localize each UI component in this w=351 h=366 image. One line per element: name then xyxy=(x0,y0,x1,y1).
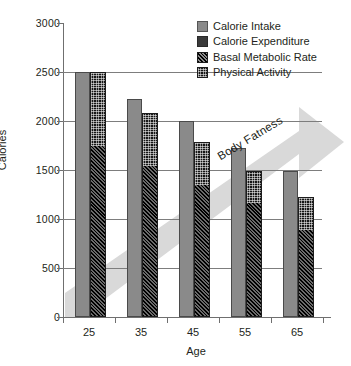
segment-physical-activity-35 xyxy=(142,113,158,166)
legend-item-physical-activity: Physical Activity xyxy=(197,66,351,81)
bar-expenditure-35 xyxy=(142,113,158,317)
legend-swatch-dotted-icon xyxy=(197,67,208,78)
bar-expenditure-25 xyxy=(90,72,106,317)
legend-item-basal-metabolic-rate: Basal Metabolic Rate xyxy=(197,50,351,65)
legend-swatch-hatched-icon xyxy=(197,52,208,63)
legend-swatch-solid-dark-icon xyxy=(197,36,208,47)
x-tick-2 xyxy=(167,317,168,323)
segment-physical-activity-45 xyxy=(194,142,210,185)
segment-bmr-55 xyxy=(246,203,262,317)
y-axis-title: Calories xyxy=(0,130,8,170)
segment-bmr-35 xyxy=(142,166,158,317)
legend-label-basal-metabolic-rate: Basal Metabolic Rate xyxy=(213,52,317,63)
calorie-chart: 3000 2500 2000 1500 1000 500 0 Calories xyxy=(0,0,351,366)
x-axis-title: Age xyxy=(186,345,206,357)
x-tick-label-65: 65 xyxy=(291,326,303,338)
x-tick-4 xyxy=(271,317,272,323)
legend-item-calorie-expenditure: Calorie Expenditure xyxy=(197,35,351,50)
chart-legend: Calorie Intake Calorie Expenditure Basal… xyxy=(197,19,351,81)
segment-physical-activity-65 xyxy=(298,197,314,229)
x-axis-line xyxy=(63,317,331,318)
bar-intake-65 xyxy=(283,171,298,317)
bar-intake-45 xyxy=(179,121,194,317)
x-tick-label-55: 55 xyxy=(239,326,251,338)
legend-item-calorie-intake: Calorie Intake xyxy=(197,19,351,34)
segment-bmr-65 xyxy=(298,230,314,317)
legend-swatch-solid-gray-icon xyxy=(197,21,208,32)
segment-bmr-25 xyxy=(90,146,106,318)
bar-expenditure-65 xyxy=(298,197,314,317)
x-tick-5 xyxy=(323,317,324,323)
segment-physical-activity-25 xyxy=(90,72,106,146)
legend-label-physical-activity: Physical Activity xyxy=(213,67,291,78)
x-tick-label-25: 25 xyxy=(83,326,95,338)
x-tick-3 xyxy=(219,317,220,323)
bar-expenditure-55 xyxy=(246,171,262,317)
x-tick-1 xyxy=(115,317,116,323)
bar-expenditure-45 xyxy=(194,142,210,317)
y-axis-labels: 3000 2500 2000 1500 1000 500 0 xyxy=(0,0,60,366)
segment-bmr-45 xyxy=(194,185,210,317)
legend-label-calorie-intake: Calorie Intake xyxy=(213,21,281,32)
x-tick-label-35: 35 xyxy=(135,326,147,338)
bar-intake-55 xyxy=(231,148,246,317)
legend-label-calorie-expenditure: Calorie Expenditure xyxy=(213,36,310,47)
bar-intake-35 xyxy=(127,99,142,318)
segment-physical-activity-55 xyxy=(246,171,262,203)
bar-intake-25 xyxy=(75,72,90,317)
x-tick-0 xyxy=(63,317,64,323)
x-tick-label-45: 45 xyxy=(187,326,199,338)
